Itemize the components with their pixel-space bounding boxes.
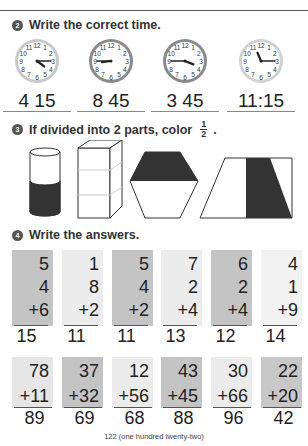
answer-value: 89 (14, 408, 55, 429)
svg-text:3: 3 (199, 58, 203, 65)
svg-text:7: 7 (101, 71, 105, 78)
clock-face: 123456789101112 (14, 38, 60, 84)
svg-text:8: 8 (245, 66, 249, 73)
addition-problem: 54+2 (112, 250, 153, 326)
addition-problem: 22+20 (261, 357, 302, 408)
svg-text:1: 1 (267, 44, 271, 51)
section-number-badge: 4 (12, 230, 23, 241)
addition-problem: 78+11 (12, 357, 53, 408)
answer-line (227, 111, 295, 112)
header-rule (0, 10, 308, 11)
rectangular-prism-shape (78, 140, 122, 218)
svg-text:5: 5 (117, 71, 121, 78)
addition-problem: 41+9 (261, 250, 302, 326)
svg-text:6: 6 (259, 74, 263, 81)
svg-text:3: 3 (125, 58, 129, 65)
addition-problem: 30+66 (211, 357, 252, 408)
section-title: Write the answers. (29, 228, 139, 242)
answer-line (3, 111, 71, 112)
time-answer: 3 45 (150, 90, 220, 112)
svg-text:4: 4 (273, 66, 277, 73)
trapezoid-shape (200, 158, 292, 218)
answer-value: 14 (255, 326, 296, 347)
answer-value: 12 (205, 326, 246, 347)
svg-text:7: 7 (251, 71, 255, 78)
svg-text:11: 11 (100, 44, 107, 51)
svg-text:4: 4 (49, 66, 53, 73)
time-answer: 8 45 (76, 90, 146, 112)
svg-text:7: 7 (27, 71, 31, 78)
section-title: Write the correct time. (29, 18, 161, 32)
svg-text:9: 9 (19, 58, 23, 65)
section-number-badge: 2 (12, 20, 23, 31)
svg-text:5: 5 (43, 71, 47, 78)
svg-text:5: 5 (191, 71, 195, 78)
svg-text:1: 1 (43, 44, 47, 51)
time-answer: 11:15 (226, 90, 296, 112)
addition-problem: 37+32 (62, 357, 103, 408)
answer-value: 88 (163, 408, 204, 429)
time-answer: 4 15 (2, 90, 72, 112)
section-2-heading: 2 Write the correct time. (12, 18, 161, 32)
addition-problem: 72+4 (161, 250, 202, 326)
shapes-figure (0, 140, 308, 220)
section-3-heading: 3 If divided into 2 parts, color 12 . (12, 120, 217, 139)
svg-text:8: 8 (169, 66, 173, 73)
svg-text:11: 11 (250, 44, 257, 51)
svg-text:8: 8 (21, 66, 25, 73)
clock-face: 123456789101112 (162, 38, 208, 84)
cylinder-shape (30, 148, 60, 216)
section-number-badge: 3 (12, 124, 23, 135)
svg-text:12: 12 (33, 42, 41, 49)
addition-problem: 18+2 (62, 250, 103, 326)
answer-value: 96 (213, 408, 254, 429)
svg-text:12: 12 (107, 42, 115, 49)
svg-text:2: 2 (197, 50, 201, 57)
answer-value: 42 (263, 408, 304, 429)
answer-value: 13 (155, 326, 196, 347)
svg-text:3: 3 (275, 58, 279, 65)
answer-line (151, 111, 219, 112)
page-number-footer: 122 (one hundred twenty-two) (0, 432, 308, 441)
svg-text:12: 12 (257, 42, 265, 49)
svg-text:1: 1 (117, 44, 121, 51)
clock-face: 123456789101112 (88, 38, 134, 84)
answer-line (77, 111, 145, 112)
answer-value: 69 (64, 408, 105, 429)
svg-text:11: 11 (26, 44, 33, 51)
svg-text:7: 7 (175, 71, 179, 78)
answer-value: 15 (6, 326, 47, 347)
svg-text:12: 12 (181, 42, 189, 49)
svg-text:2: 2 (49, 50, 53, 57)
svg-text:9: 9 (243, 58, 247, 65)
svg-text:4: 4 (123, 66, 127, 73)
svg-text:6: 6 (183, 74, 187, 81)
svg-text:6: 6 (35, 74, 39, 81)
addition-problem: 12+56 (112, 357, 153, 408)
fraction-one-half: 12 (200, 120, 207, 139)
addition-problem: 54+6 (12, 250, 53, 326)
svg-text:11: 11 (174, 44, 181, 51)
svg-text:3: 3 (51, 58, 55, 65)
section-4-heading: 4 Write the answers. (12, 228, 139, 242)
svg-text:8: 8 (95, 66, 99, 73)
svg-text:1: 1 (191, 44, 195, 51)
svg-text:6: 6 (109, 74, 113, 81)
clock-face: 123456789101112 (238, 38, 284, 84)
hexagon-shape (130, 152, 198, 218)
svg-text:2: 2 (123, 50, 127, 57)
svg-text:2: 2 (273, 50, 277, 57)
addition-problem: 43+45 (161, 357, 202, 408)
answer-value: 11 (56, 326, 97, 347)
addition-problem: 62+4 (211, 250, 252, 326)
svg-text:5: 5 (267, 71, 271, 78)
section-title: If divided into 2 parts, color (29, 123, 192, 137)
answer-value: 68 (114, 408, 155, 429)
svg-text:4: 4 (197, 66, 201, 73)
answer-value: 11 (106, 326, 147, 347)
